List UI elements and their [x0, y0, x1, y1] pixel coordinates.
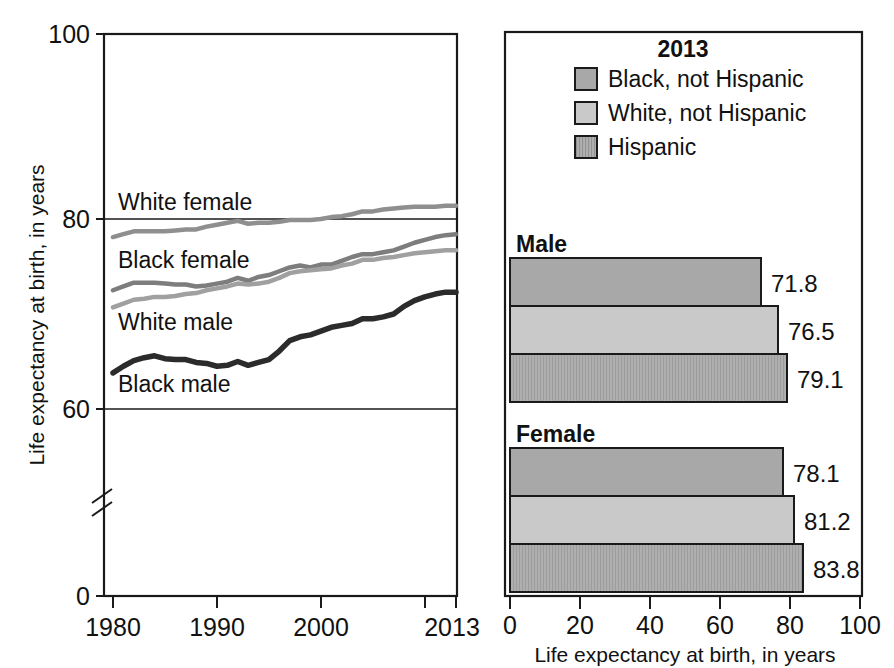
- bar-xtick-label-40: 40: [636, 611, 664, 639]
- bar-value-male-white-not-hispanic: 76.5: [788, 318, 835, 345]
- ytick-label-60: 60: [62, 395, 90, 423]
- series-label-black-male: Black male: [118, 371, 230, 397]
- ytick-label-100: 100: [48, 20, 90, 48]
- bar-male-hispanic[interactable]: [510, 354, 787, 402]
- legend-label-hispanic: Hispanic: [608, 134, 696, 160]
- bar-value-female-white-not-hispanic: 81.2: [804, 508, 851, 535]
- bar-xtick-label-100: 100: [839, 611, 881, 639]
- bar-value-male-hispanic: 79.1: [797, 366, 844, 393]
- series-label-black-female: Black female: [118, 247, 250, 273]
- bar-xtick-label-60: 60: [706, 611, 734, 639]
- bar-female-hispanic[interactable]: [510, 544, 803, 592]
- legend-title: 2013: [657, 36, 708, 62]
- xtick-label-2000: 2000: [293, 613, 349, 641]
- bar-value-male-black-not-hispanic: 71.8: [771, 270, 818, 297]
- figure-container: 100 80 60 0 Life expectancy at birth, in…: [0, 0, 894, 668]
- xtick-label-1980: 1980: [85, 613, 141, 641]
- bar-xtick-label-80: 80: [776, 611, 804, 639]
- bar-group-label-female: Female: [516, 421, 595, 447]
- bar-male-white-not-hispanic[interactable]: [510, 306, 778, 354]
- xtick-label-2013: 2013: [424, 613, 480, 641]
- bar-xtick-label-0: 0: [503, 611, 517, 639]
- ytick-label-80: 80: [62, 205, 90, 233]
- bar-value-female-hispanic: 83.8: [813, 556, 860, 583]
- series-label-white-female: White female: [118, 189, 252, 215]
- legend-swatch-black-not-hispanic: [575, 68, 597, 90]
- bar-male-black-not-hispanic[interactable]: [510, 258, 761, 306]
- bar-group-label-male: Male: [516, 231, 567, 257]
- legend-label-white-not-hispanic: White, not Hispanic: [608, 100, 806, 126]
- line-chart-y-axis-title: Life expectancy at birth, in years: [25, 164, 48, 465]
- bar-value-female-black-not-hispanic: 78.1: [793, 460, 840, 487]
- bar-xtick-label-20: 20: [566, 611, 594, 639]
- legend-label-black-not-hispanic: Black, not Hispanic: [608, 66, 804, 92]
- legend-swatch-hispanic: [575, 136, 597, 158]
- ytick-label-0: 0: [76, 582, 90, 610]
- bar-female-black-not-hispanic[interactable]: [510, 448, 783, 496]
- bar-female-white-not-hispanic[interactable]: [510, 496, 794, 544]
- chart-svg: 100 80 60 0 Life expectancy at birth, in…: [0, 0, 894, 668]
- legend-swatch-white-not-hispanic: [575, 102, 597, 124]
- xtick-label-1990: 1990: [189, 613, 245, 641]
- series-label-white-male: White male: [118, 309, 233, 335]
- bar-chart-x-axis-title: Life expectancy at birth, in years: [534, 643, 835, 666]
